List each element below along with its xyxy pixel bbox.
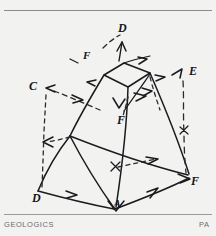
vertex-label-d-top: D: [118, 22, 127, 34]
footer-left-text: GEOLOGICS: [4, 220, 54, 229]
vertex-label-f-right: F: [191, 175, 199, 187]
bottom-divider-rule: [4, 214, 212, 215]
vertex-label-a-bottom: A: [113, 198, 121, 210]
vertex-label-c-left: C: [29, 80, 37, 92]
vertex-label-f-center: F: [117, 114, 125, 126]
vertex-label-e-right: E: [189, 65, 197, 77]
figure-drawing: [0, 11, 216, 213]
page-canvas: D E C F D F A F GEOLOGICS PA: [0, 0, 216, 236]
solid-edges: [38, 42, 189, 209]
footer-right-text: PA: [199, 220, 210, 229]
edge-label-f-upper-left: F: [83, 50, 90, 61]
geometry-figure: D E C F D F A F: [0, 11, 216, 213]
vertex-label-d-lower: D: [32, 192, 41, 204]
